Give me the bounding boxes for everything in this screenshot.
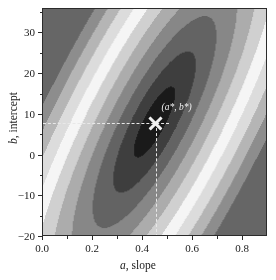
y-axis-label: b, intercept [7, 58, 19, 178]
x-tick-major [92, 236, 93, 240]
x-tick-minor [67, 236, 68, 239]
y-tick-minor [40, 53, 43, 54]
y-tick-label: −10 [4, 189, 35, 201]
x-tick-major [42, 236, 43, 240]
y-tick-major [38, 195, 42, 196]
x-tick-major [242, 236, 243, 240]
x-tick-major [142, 236, 143, 240]
x-axis-label: a, slope [0, 259, 276, 271]
x-tick-minor [217, 236, 218, 239]
y-tick-minor [40, 94, 43, 95]
y-tick-major [38, 32, 42, 33]
y-axis-label-symbol: b [7, 138, 19, 144]
y-tick-minor [40, 12, 43, 13]
x-tick-label: 0.2 [85, 242, 99, 254]
y-tick-major [38, 73, 42, 74]
cost-surface-heatmap [43, 9, 266, 235]
x-tick-minor [167, 236, 168, 239]
x-tick-major [192, 236, 193, 240]
x-tick-label: 0.6 [185, 242, 199, 254]
x-tick-label: 0.8 [235, 242, 249, 254]
x-tick-label: 0.4 [135, 242, 149, 254]
plot-area: (a*, b*) [42, 8, 267, 236]
y-tick-minor [40, 216, 43, 217]
y-tick-minor [40, 175, 43, 176]
y-tick-label: 30 [4, 26, 35, 38]
x-tick-label: 0.0 [35, 242, 49, 254]
y-tick-label: −20 [4, 230, 35, 242]
figure-canvas: (a*, b*) 0.00.20.40.60.8 −20−100102030 a… [0, 0, 276, 280]
y-tick-minor [40, 134, 43, 135]
y-tick-major [38, 155, 42, 156]
y-tick-major [38, 114, 42, 115]
x-tick-minor [117, 236, 118, 239]
y-axis-label-text: , intercept [7, 92, 19, 138]
x-axis-label-text: , slope [126, 259, 156, 271]
y-tick-major [38, 236, 42, 237]
